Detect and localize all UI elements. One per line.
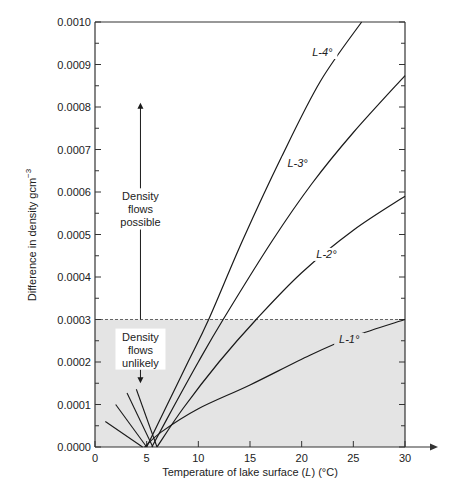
x-tick-label: 30 — [399, 452, 411, 464]
annotation-text: flows — [128, 344, 154, 356]
x-tick-label: 10 — [192, 452, 204, 464]
x-tick-label: 25 — [347, 452, 359, 464]
y-axis-title: Difference in density gcm−3 — [24, 168, 38, 301]
y-tick-label: 0.0001 — [57, 399, 91, 411]
y-tick-label: 0.0009 — [57, 59, 91, 71]
density-difference-chart: 0.00000.00010.00020.00030.00040.00050.00… — [0, 0, 450, 496]
curve-label: L-4° — [312, 46, 333, 58]
y-tick-label: 0.0000 — [57, 441, 91, 453]
curve-label: L-1° — [339, 333, 360, 345]
y-tick-label: 0.0003 — [57, 314, 91, 326]
y-tick-label: 0.0005 — [57, 229, 91, 241]
annotation-text: Density — [122, 190, 159, 202]
y-tick-label: 0.0008 — [57, 101, 91, 113]
annotation-text: unlikely — [122, 357, 159, 369]
annotation-text: flows — [128, 203, 154, 215]
x-tick-label: 5 — [144, 452, 150, 464]
y-tick-label: 0.0006 — [57, 186, 91, 198]
x-tick-label: 15 — [244, 452, 256, 464]
y-tick-label: 0.0007 — [57, 144, 91, 156]
annotation-text: possible — [120, 216, 160, 228]
y-tick-label: 0.0010 — [57, 16, 91, 28]
x-axis-title: Temperature of lake surface (L) (°C) — [162, 466, 338, 478]
x-tick-label: 20 — [296, 452, 308, 464]
y-tick-label: 0.0002 — [57, 356, 91, 368]
annotation-text: Density — [122, 331, 159, 343]
curve-label: L-3° — [287, 157, 308, 169]
annotations: DensityflowspossibleDensityflowsunlikely — [115, 103, 165, 384]
x-tick-label: 0 — [92, 452, 98, 464]
curve-label: L-2° — [316, 248, 337, 260]
y-tick-label: 0.0004 — [57, 271, 91, 283]
arrow-up-icon — [137, 103, 143, 109]
x-axis-arrow-icon — [430, 444, 438, 451]
